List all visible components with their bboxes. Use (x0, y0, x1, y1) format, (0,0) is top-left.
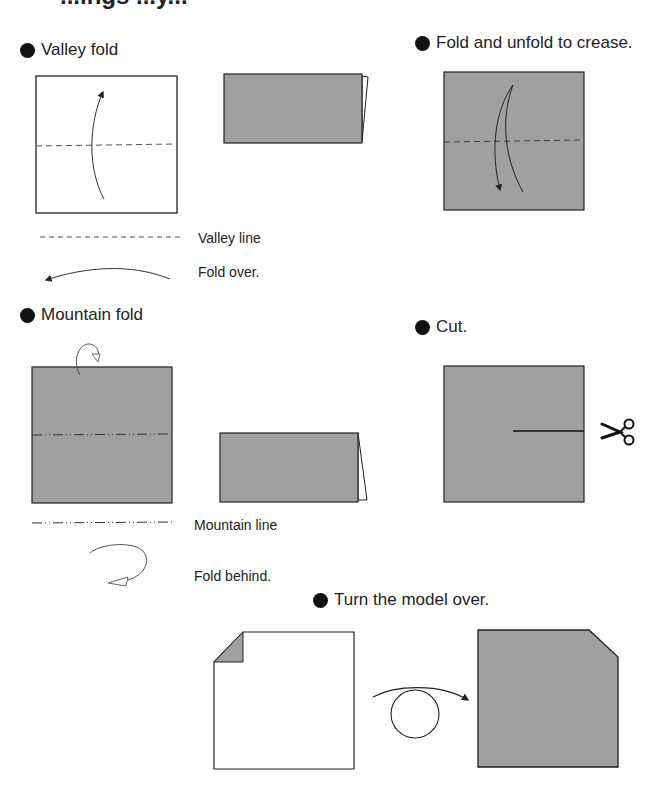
fold-over-arrow-icon (46, 269, 170, 280)
cut-diagram (444, 366, 584, 502)
fold-behind-symbol-icon (90, 545, 147, 586)
valley-fold-result (224, 74, 368, 143)
turn-over-icon (373, 688, 468, 738)
turn-over-front (214, 632, 354, 769)
scissors-icon (602, 420, 634, 445)
diagrams-canvas (0, 0, 662, 789)
mountain-fold-diagram (32, 344, 172, 503)
fold-unfold-diagram (444, 72, 584, 210)
valley-fold-diagram (36, 76, 177, 213)
mountain-fold-result (220, 433, 367, 502)
mountain-line-symbol (32, 522, 174, 523)
turn-over-back (478, 630, 618, 767)
